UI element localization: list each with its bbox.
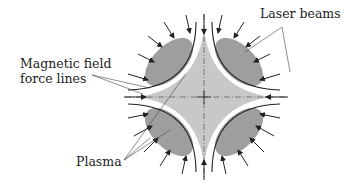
magnetic-field-label-line2: force lines — [20, 71, 86, 86]
laser-plasma-diagram — [0, 0, 359, 185]
magnetic-field-label-line1: Magnetic field — [20, 56, 111, 71]
laser-beams-label: Laser beams — [260, 6, 341, 21]
plasma-label: Plasma — [76, 154, 122, 169]
